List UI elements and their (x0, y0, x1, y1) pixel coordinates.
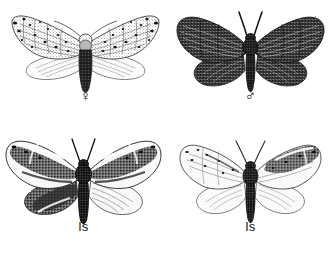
figure-ls-left-moth: ls (0, 128, 167, 259)
ls-right-moth-drawing (167, 128, 334, 233)
figure-female-moth: ♀ (2, 2, 169, 130)
ls-left-moth-drawing (0, 128, 167, 233)
figure-label-ls-left: ls (0, 220, 167, 233)
figure-label-ls-right: ls (167, 220, 334, 233)
figure-ls-right-moth: ls (167, 128, 334, 259)
figure-male-moth: ♂ (167, 2, 334, 130)
moth-illustration-plate: ♀ (0, 0, 334, 259)
figure-label-male: ♂ (167, 88, 334, 103)
figure-label-female: ♀ (2, 88, 169, 103)
